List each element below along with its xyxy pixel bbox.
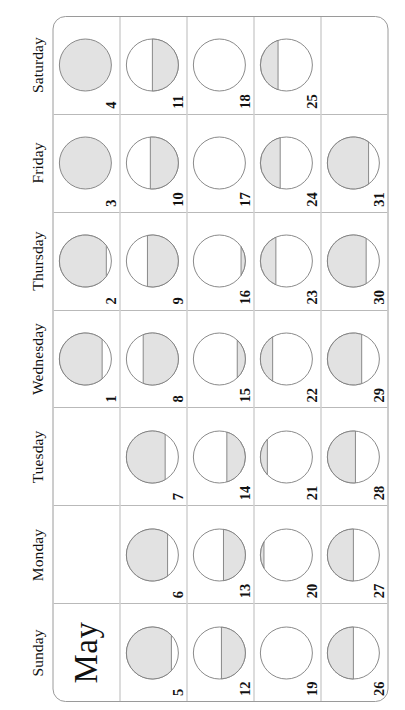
day-cell-8[interactable]: 8 — [120, 310, 186, 408]
moon-phase-glyph — [258, 233, 314, 289]
day-number: 14 — [237, 486, 252, 501]
day-number: 31 — [371, 192, 386, 207]
day-cell-30[interactable]: 30 — [321, 212, 387, 310]
moon-phase-icon — [124, 135, 180, 191]
moon-phase-glyph — [325, 527, 381, 583]
day-number: 8 — [170, 395, 185, 402]
day-cell-24[interactable]: 24 — [254, 114, 320, 212]
moon-phase-glyph — [57, 135, 113, 191]
moon-phase-glyph — [124, 527, 180, 583]
calendar-grid: May1234567891011121314151617181920212223… — [52, 16, 388, 702]
empty-day-cell — [53, 505, 119, 603]
weekday-header-sunday: Sunday — [22, 604, 52, 702]
moon-phase-icon — [124, 37, 180, 93]
moon-phase-glyph — [191, 527, 247, 583]
moon-phase-icon — [258, 625, 314, 681]
day-cell-25[interactable]: 25 — [254, 17, 320, 114]
moon-phase-glyph — [124, 331, 180, 387]
moon-phase-icon — [124, 527, 180, 583]
day-cell-1[interactable]: 1 — [53, 310, 119, 408]
day-cell-2[interactable]: 2 — [53, 212, 119, 310]
moon-phase-icon — [325, 233, 381, 289]
weekday-header-monday: Monday — [22, 506, 52, 604]
calendar-week-row: 12131415161718 — [187, 17, 254, 701]
empty-day-cell — [321, 17, 387, 114]
moon-phase-glyph — [258, 331, 314, 387]
moon-phase-icon — [57, 233, 113, 289]
day-cell-14[interactable]: 14 — [187, 407, 253, 505]
day-cell-16[interactable]: 16 — [187, 212, 253, 310]
moon-phase-icon — [57, 331, 113, 387]
moon-phase-icon — [124, 625, 180, 681]
moon-phase-glyph — [57, 331, 113, 387]
day-cell-4[interactable]: 4 — [53, 17, 119, 114]
calendar-week-row: 567891011 — [120, 17, 187, 701]
day-cell-15[interactable]: 15 — [187, 310, 253, 408]
day-cell-27[interactable]: 27 — [321, 505, 387, 603]
weekday-header-row: SundayMondayTuesdayWednesdayThursdayFrid… — [22, 16, 52, 702]
day-number: 7 — [170, 493, 185, 500]
moon-phase-icon — [191, 625, 247, 681]
day-cell-29[interactable]: 29 — [321, 310, 387, 408]
moon-phase-icon — [258, 429, 314, 485]
moon-phase-glyph — [191, 135, 247, 191]
day-number: 22 — [304, 388, 319, 403]
day-number: 24 — [304, 192, 319, 207]
weekday-header-friday: Friday — [22, 114, 52, 212]
day-cell-20[interactable]: 20 — [254, 505, 320, 603]
day-number: 17 — [237, 192, 252, 207]
day-number: 30 — [371, 290, 386, 305]
day-number: 13 — [237, 584, 252, 599]
moon-phase-glyph — [258, 135, 314, 191]
moon-phase-icon — [191, 527, 247, 583]
calendar-week-row: 19202122232425 — [254, 17, 321, 701]
day-cell-7[interactable]: 7 — [120, 407, 186, 505]
moon-phase-icon — [124, 429, 180, 485]
rotated-calendar-container: SundayMondayTuesdayWednesdayThursdayFrid… — [0, 0, 405, 710]
moon-phase-icon — [325, 527, 381, 583]
day-cell-9[interactable]: 9 — [120, 212, 186, 310]
moon-phase-glyph — [258, 625, 314, 681]
moon-phase-icon — [325, 429, 381, 485]
day-cell-21[interactable]: 21 — [254, 407, 320, 505]
day-cell-10[interactable]: 10 — [120, 114, 186, 212]
moon-phase-glyph — [124, 233, 180, 289]
moon-phase-icon — [124, 331, 180, 387]
day-number: 9 — [170, 297, 185, 304]
day-number: 27 — [371, 584, 386, 599]
moon-phase-icon — [191, 429, 247, 485]
day-cell-22[interactable]: 22 — [254, 310, 320, 408]
weekday-header-wednesday: Wednesday — [22, 310, 52, 408]
moon-phase-glyph — [258, 429, 314, 485]
day-cell-23[interactable]: 23 — [254, 212, 320, 310]
day-cell-13[interactable]: 13 — [187, 505, 253, 603]
day-number: 4 — [103, 102, 118, 109]
day-cell-19[interactable]: 19 — [254, 603, 320, 701]
calendar-week-row: 262728293031 — [321, 17, 387, 701]
moon-phase-icon — [191, 331, 247, 387]
day-number: 20 — [304, 584, 319, 599]
moon-phase-icon — [325, 331, 381, 387]
weekday-header-tuesday: Tuesday — [22, 408, 52, 506]
day-number: 5 — [170, 689, 185, 696]
day-cell-17[interactable]: 17 — [187, 114, 253, 212]
day-number: 18 — [237, 94, 252, 109]
empty-day-cell — [53, 407, 119, 505]
day-cell-31[interactable]: 31 — [321, 114, 387, 212]
moon-phase-glyph — [124, 429, 180, 485]
day-cell-5[interactable]: 5 — [120, 603, 186, 701]
day-number: 25 — [304, 94, 319, 109]
day-cell-3[interactable]: 3 — [53, 114, 119, 212]
day-number: 26 — [371, 682, 386, 697]
day-cell-18[interactable]: 18 — [187, 17, 253, 114]
moon-phase-glyph — [191, 331, 247, 387]
moon-phase-icon — [258, 37, 314, 93]
moon-phase-glyph — [258, 527, 314, 583]
day-cell-28[interactable]: 28 — [321, 407, 387, 505]
day-cell-26[interactable]: 26 — [321, 603, 387, 701]
day-cell-12[interactable]: 12 — [187, 603, 253, 701]
moon-phase-glyph — [191, 429, 247, 485]
day-cell-6[interactable]: 6 — [120, 505, 186, 603]
moon-phase-glyph — [325, 233, 381, 289]
day-cell-11[interactable]: 11 — [120, 17, 186, 114]
